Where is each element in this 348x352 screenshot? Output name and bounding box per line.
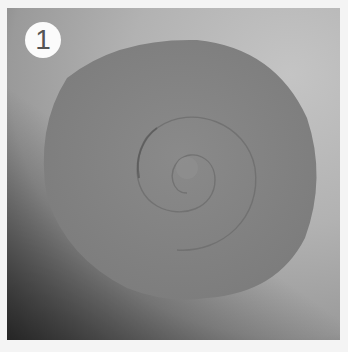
step-number: 1: [35, 24, 51, 56]
photo-frame: 1: [7, 8, 340, 340]
step-number-badge: 1: [25, 22, 61, 58]
paper-spiral-disc: [7, 8, 340, 340]
